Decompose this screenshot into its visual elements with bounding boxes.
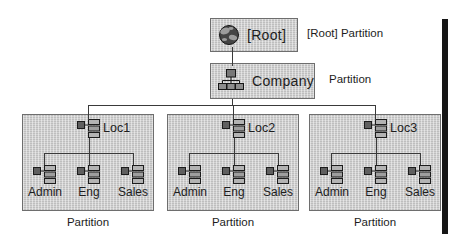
partition-diagram: [Root] [Root] Partition Company Partit xyxy=(0,0,468,247)
location-node-label: Loc1 xyxy=(103,121,130,135)
root-node: [Root] xyxy=(210,18,298,52)
connector-line xyxy=(88,105,89,120)
organizational-unit-icon xyxy=(77,165,101,185)
connector-line xyxy=(88,105,376,106)
location-node-loc1: Loc1 Admin Eng Sales xyxy=(22,114,154,211)
location-node-loc3: Loc3 Admin Eng Sales xyxy=(309,114,441,211)
organizational-unit-icon xyxy=(266,165,290,185)
child-node-label: Admin xyxy=(23,185,67,199)
location-node-loc2: Loc2 Admin Eng Sales xyxy=(167,114,299,211)
child-node-label: Eng xyxy=(67,185,111,199)
organizational-unit-icon xyxy=(77,119,101,139)
connector-line xyxy=(232,47,233,66)
child-node-label: Sales xyxy=(256,185,300,199)
organizational-unit-icon xyxy=(121,165,145,185)
child-node-label: Eng xyxy=(354,185,398,199)
organizational-unit-icon xyxy=(408,165,432,185)
connector-line xyxy=(375,105,376,120)
company-node-label: Company xyxy=(252,73,314,89)
organizational-unit-icon xyxy=(178,165,202,185)
organizational-unit-icon xyxy=(320,165,344,185)
loc1-partition-label: Partition xyxy=(48,216,128,228)
connector-line xyxy=(89,138,90,153)
location-node-label: Loc3 xyxy=(390,121,417,135)
root-partition-label: [Root] Partition xyxy=(307,27,383,39)
connector-line xyxy=(376,138,377,153)
connector-line xyxy=(233,105,234,120)
organizational-unit-icon xyxy=(222,165,246,185)
child-node-label: Admin xyxy=(168,185,212,199)
organizational-unit-icon xyxy=(364,165,388,185)
organizational-unit-icon xyxy=(364,119,388,139)
child-node-label: Admin xyxy=(310,185,354,199)
black-edge-bar xyxy=(442,19,448,234)
connector-line xyxy=(234,138,235,153)
child-node-label: Sales xyxy=(398,185,442,199)
org-chart-icon xyxy=(218,68,244,94)
loc3-partition-label: Partition xyxy=(335,216,415,228)
child-node-label: Eng xyxy=(212,185,256,199)
company-node: Company xyxy=(210,63,315,99)
loc2-partition-label: Partition xyxy=(193,216,273,228)
globe-icon xyxy=(218,24,240,46)
organizational-unit-icon xyxy=(222,119,246,139)
company-partition-label: Partition xyxy=(329,73,371,85)
location-node-label: Loc2 xyxy=(248,121,275,135)
organizational-unit-icon xyxy=(33,165,57,185)
root-node-label: [Root] xyxy=(247,27,286,43)
child-node-label: Sales xyxy=(111,185,155,199)
